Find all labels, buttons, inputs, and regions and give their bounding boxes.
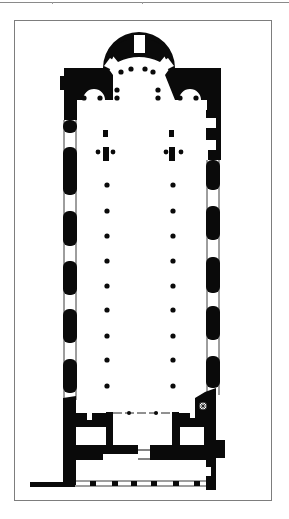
nave-column xyxy=(104,283,109,288)
chancel-post-right xyxy=(169,130,174,137)
entrance-column xyxy=(154,411,158,415)
chancel-column xyxy=(164,150,169,155)
wall-pier xyxy=(206,160,220,190)
apse-column xyxy=(128,66,133,71)
nave-column xyxy=(170,258,175,263)
nave-column xyxy=(170,208,175,213)
nave-column xyxy=(170,283,175,288)
apse-column xyxy=(177,95,182,100)
wall-pier xyxy=(63,120,77,133)
chancel-column xyxy=(96,150,101,155)
wall-pier xyxy=(206,257,220,293)
nave-column xyxy=(170,383,175,388)
east-block-left xyxy=(64,68,113,120)
portico-post xyxy=(173,481,179,486)
right-wall-piers xyxy=(206,160,220,388)
apse-column xyxy=(150,69,155,74)
apse-column xyxy=(97,95,102,100)
nave-column xyxy=(170,357,175,362)
chancel-column xyxy=(179,150,184,155)
nave-column xyxy=(104,333,109,338)
west-room-right xyxy=(180,427,204,445)
apse-column xyxy=(155,87,160,92)
left-wall-piers xyxy=(63,120,77,393)
nave-column xyxy=(104,182,109,187)
nave-column xyxy=(170,333,175,338)
wall-pier xyxy=(206,306,220,340)
nave-columns xyxy=(104,182,175,388)
nave-column xyxy=(170,233,175,238)
apse-column xyxy=(114,87,119,92)
wall-pier xyxy=(63,359,77,393)
chancel-post-left xyxy=(103,130,108,137)
nave-column xyxy=(104,208,109,213)
apse-column xyxy=(118,69,123,74)
wall-pier xyxy=(206,206,220,240)
portico-post xyxy=(90,481,96,486)
east-block-right xyxy=(165,68,221,110)
nave-column xyxy=(170,182,175,187)
apse-column xyxy=(155,95,160,100)
east-buttress-left xyxy=(60,76,65,90)
east-annex-right xyxy=(206,110,221,160)
west-niche-right xyxy=(205,467,211,476)
chancel-column xyxy=(111,150,116,155)
portico-post xyxy=(112,481,118,486)
portico-posts xyxy=(90,481,200,486)
wall-pier xyxy=(206,356,220,388)
apse-column xyxy=(142,66,147,71)
portico-post xyxy=(151,481,157,486)
nave-column xyxy=(104,307,109,312)
nave-column xyxy=(104,233,109,238)
portico-post xyxy=(194,481,200,486)
chancel-piers xyxy=(96,130,184,161)
apse-column xyxy=(81,95,86,100)
wall-pier xyxy=(63,211,77,246)
entrance-column xyxy=(127,411,131,415)
basilica-floor-plan xyxy=(0,0,289,519)
portico-post xyxy=(131,481,137,486)
nave-column xyxy=(104,357,109,362)
apse-column xyxy=(114,95,119,100)
chancel-pier-left xyxy=(103,147,109,161)
portico-wall-left xyxy=(30,482,75,487)
apse-window xyxy=(134,35,145,53)
wall-pier xyxy=(63,261,77,295)
nave-column xyxy=(104,258,109,263)
west-room-left xyxy=(76,427,106,445)
wall-pier xyxy=(63,147,77,195)
spiral-stair-icon xyxy=(199,402,207,410)
wall-pier xyxy=(63,309,77,343)
west-end xyxy=(30,388,225,490)
apse-column xyxy=(193,95,198,100)
chancel-pier-right xyxy=(169,147,175,161)
nave-column xyxy=(104,383,109,388)
nave-column xyxy=(170,307,175,312)
